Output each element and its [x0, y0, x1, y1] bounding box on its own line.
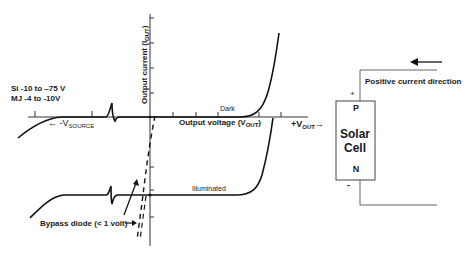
plus-terminal-label: + [350, 89, 355, 98]
dark-curve-label: Dark [220, 105, 235, 112]
pos-vout-label: +VOUT→ [291, 119, 324, 130]
arrowhead-icon [133, 179, 139, 186]
origin-dot [149, 194, 152, 197]
mj-range-label: MJ -4 to -10V [11, 94, 60, 103]
positive-current-label: Positive current direction [365, 77, 461, 86]
neg-vsource-label: ← -VSOURCE [48, 118, 94, 129]
p-layer-label: P [336, 102, 376, 115]
solar-cell-name: Solar Cell [335, 127, 375, 155]
bottom-wire [360, 180, 437, 205]
bypass-diode-curve-lower [140, 196, 146, 240]
bypass-diode-label: Bypass diode (< 1 volt) [40, 219, 127, 228]
illuminated-curve [30, 118, 273, 218]
si-range-label: Si -10 to –75 V [11, 84, 65, 93]
x-axis-label: Output voltage (VOUT) [179, 118, 261, 128]
minus-terminal-label: - [347, 180, 350, 190]
arrowhead-right-icon [132, 220, 137, 226]
y-axis-label: Output current (IOUT) [140, 26, 150, 104]
bypass-pointer-arrow [124, 183, 136, 215]
illuminated-curve-label: Illuminated [192, 185, 226, 192]
n-layer-label: N [336, 163, 376, 176]
bypass-diode-curve [137, 116, 155, 240]
origin-dot-dark [149, 116, 151, 118]
arrow-left-icon [410, 58, 418, 66]
